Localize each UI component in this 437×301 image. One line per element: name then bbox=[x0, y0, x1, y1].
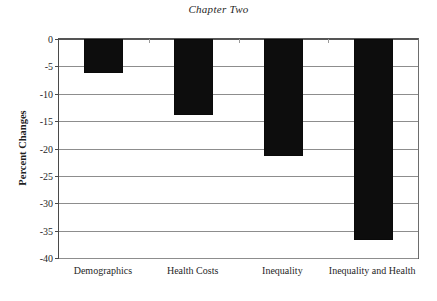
x-axis-tick-mark bbox=[239, 39, 240, 43]
bar bbox=[264, 39, 303, 156]
y-axis-tick-mark bbox=[55, 39, 59, 40]
y-axis-tick-label: -35 bbox=[40, 225, 53, 236]
chart-title: Chapter Two bbox=[0, 3, 437, 15]
y-axis-tick-label: -10 bbox=[40, 88, 53, 99]
y-axis-tick-label: -20 bbox=[40, 143, 53, 154]
y-axis-tick-label: -25 bbox=[40, 170, 53, 181]
bar bbox=[174, 39, 213, 115]
y-axis-tick-label: -30 bbox=[40, 198, 53, 209]
x-axis-tick-mark bbox=[328, 39, 329, 43]
y-axis-tick-mark bbox=[55, 203, 59, 204]
y-axis-tick-mark bbox=[55, 66, 59, 67]
y-axis-title: Percent Changes bbox=[17, 110, 28, 185]
plot-area: 0-5-10-15-20-25-30-35-40 bbox=[58, 38, 419, 259]
x-axis-category-label: Health Costs bbox=[148, 264, 238, 277]
y-axis-title-container: Percent Changes bbox=[14, 38, 30, 258]
x-axis-category-label: Inequality and Health bbox=[327, 264, 417, 277]
y-axis-tick-mark bbox=[55, 176, 59, 177]
y-axis-tick-label: -5 bbox=[45, 61, 53, 72]
bar bbox=[84, 39, 123, 73]
x-axis-tick-mark bbox=[149, 39, 150, 43]
gridline bbox=[59, 258, 418, 259]
y-axis-tick-label: 0 bbox=[48, 34, 53, 45]
y-axis-tick-mark bbox=[55, 149, 59, 150]
y-axis-tick-label: -15 bbox=[40, 116, 53, 127]
bar-chart-figure: Chapter Two Percent Changes 0-5-10-15-20… bbox=[0, 0, 437, 301]
bar bbox=[354, 39, 393, 240]
y-axis-tick-mark bbox=[55, 121, 59, 122]
y-axis-tick-mark bbox=[55, 231, 59, 232]
y-axis-tick-label: -40 bbox=[40, 253, 53, 264]
x-axis-category-label: Demographics bbox=[58, 264, 148, 277]
y-axis-tick-mark bbox=[55, 258, 59, 259]
x-axis-category-label: Inequality bbox=[238, 264, 328, 277]
y-axis-tick-mark bbox=[55, 94, 59, 95]
